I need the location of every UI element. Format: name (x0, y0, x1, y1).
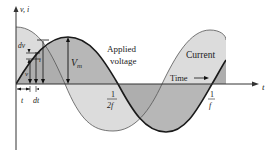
half-period-numerator: 1 (111, 90, 115, 99)
vertical-axis-arrow-icon (14, 6, 19, 12)
current-label: Current (186, 50, 215, 60)
applied-voltage-label-1: Applied (107, 44, 136, 54)
applied-voltage-label-2: voltage (110, 56, 137, 66)
dt-label: dt (33, 96, 40, 105)
i-label: i (39, 56, 41, 64)
waveform-plot: v, i t dv i v Vm Applied voltage Current… (0, 0, 274, 155)
t-right-arrow-icon (26, 88, 30, 91)
period-numerator: 1 (210, 90, 214, 99)
time-axis-arrow-icon (252, 82, 259, 87)
vertical-axis-label: v, i (20, 5, 29, 14)
dv-label: dv (18, 41, 26, 50)
t-left-arrow-icon (17, 88, 21, 91)
time-axis-label: t (262, 82, 265, 92)
t-label: t (21, 96, 24, 105)
period-denominator: f (209, 101, 213, 110)
dt-arrow-icon (36, 88, 39, 90)
capacitor-ac-diagram: v, i t dv i v Vm Applied voltage Current… (0, 0, 274, 155)
time-label: Time (170, 73, 188, 83)
